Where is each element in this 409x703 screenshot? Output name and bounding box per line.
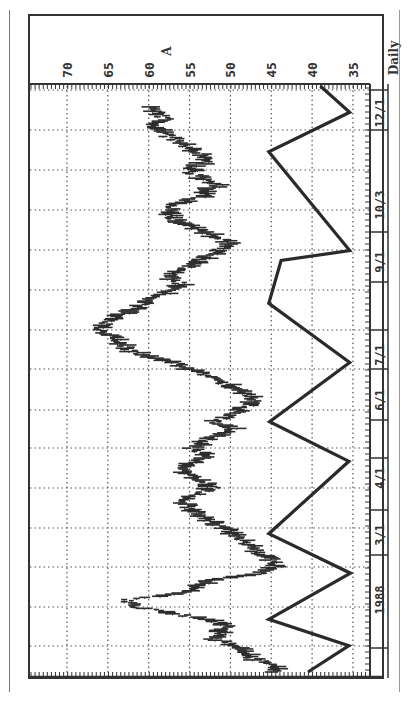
marker-a-label: A: [160, 46, 174, 57]
cycle-zigzag-line: [269, 86, 351, 672]
price-tick-60: 60: [142, 62, 157, 78]
date-tick-12-1: 12/1: [373, 99, 387, 128]
date-tick-3-1: 3/1: [373, 524, 387, 546]
price-tick-65: 65: [101, 62, 116, 78]
price-tick-55: 55: [183, 62, 198, 78]
price-tick-70: 70: [60, 62, 75, 78]
date-tick-1988: 1988: [373, 586, 387, 615]
period-label: Daily: [387, 40, 401, 75]
price-tick-labels: 7065605550454035: [60, 62, 361, 78]
date-tick-4-1: 4/1: [373, 467, 387, 489]
price-tick-50: 50: [223, 62, 238, 78]
date-tick-7-1: 7/1: [373, 344, 387, 366]
price-bars: [92, 107, 288, 674]
price-chart: 7065605550454035 12/110/39/17/16/14/13/1…: [0, 0, 409, 703]
price-tick-40: 40: [305, 62, 320, 78]
date-tick-9-1: 9/1: [373, 251, 387, 273]
price-tick-45: 45: [264, 62, 279, 78]
date-tick-labels: 12/110/39/17/16/14/13/11988: [370, 90, 388, 648]
date-tick-10-3: 10/3: [373, 191, 387, 220]
price-tick-35: 35: [346, 62, 361, 78]
date-tick-6-1: 6/1: [373, 389, 387, 411]
